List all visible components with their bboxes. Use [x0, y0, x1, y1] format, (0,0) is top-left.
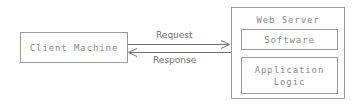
request-connector-label: Request	[156, 30, 193, 40]
web-server-title: Web Server	[232, 14, 344, 26]
client-machine-node: Client Machine	[20, 32, 128, 63]
response-connector-label: Response	[153, 55, 196, 65]
diagram-canvas: Client Machine Request Response Web Serv…	[0, 0, 360, 106]
client-machine-label: Client Machine	[30, 42, 118, 54]
application-logic-component: Application Logic	[241, 57, 338, 94]
software-component: Software	[241, 29, 338, 50]
software-label: Software	[264, 34, 315, 46]
web-server-node: Web Server Software Application Logic	[231, 7, 345, 99]
application-logic-label: Application Logic	[255, 64, 325, 88]
request-connector	[128, 41, 230, 49]
